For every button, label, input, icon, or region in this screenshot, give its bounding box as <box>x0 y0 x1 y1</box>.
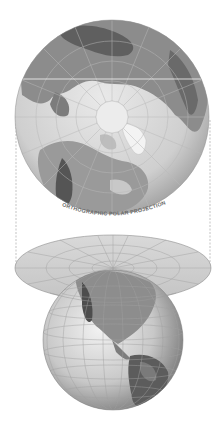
bottom-globe <box>43 270 183 410</box>
projection-diagram: ORTHOGRAPHIC POLAR PROJECTION <box>0 0 224 427</box>
top-globe <box>10 18 214 214</box>
